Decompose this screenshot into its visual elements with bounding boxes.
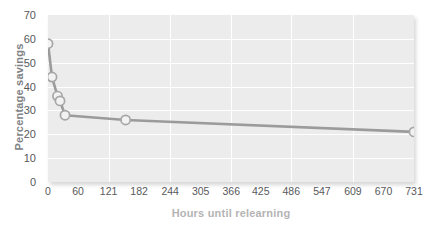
y-axis-tick-label: 20: [10, 129, 36, 140]
x-axis-tick-label: 731: [405, 186, 423, 197]
data-point-marker: [121, 115, 130, 124]
y-axis-tick-label: 50: [10, 57, 36, 68]
y-axis-tick-label: 30: [10, 105, 36, 116]
x-axis-tick-label: 244: [161, 186, 179, 197]
chart-figure: Percentage savings 010203040506070 06012…: [0, 0, 429, 236]
x-axis-tick-label: 121: [100, 186, 118, 197]
x-axis-tick-label: 547: [313, 186, 331, 197]
x-axis-tick-label: 425: [252, 186, 270, 197]
y-axis-tick-label: 40: [10, 81, 36, 92]
data-series-layer: [48, 15, 414, 182]
x-axis-tick-label: 182: [130, 186, 148, 197]
y-axis-tick-label: 60: [10, 33, 36, 44]
series-line-percentage-savings: [48, 44, 414, 132]
data-point-marker: [55, 96, 64, 105]
data-point-marker: [60, 111, 69, 120]
y-axis-tick-label: 10: [10, 153, 36, 164]
data-point-marker: [48, 72, 57, 81]
y-axis-tick-label: 70: [10, 10, 36, 21]
plot-area: [48, 15, 414, 182]
x-axis-tick-labels: 060121182244305366425486547609670731: [0, 186, 429, 202]
x-axis-tick-label: 0: [45, 186, 51, 197]
series-markers: [48, 39, 414, 136]
x-axis-title: Hours until relearning: [48, 207, 414, 219]
x-axis-tick-label: 486: [283, 186, 301, 197]
x-axis-tick-label: 609: [344, 186, 362, 197]
x-axis-tick-label: 366: [223, 186, 241, 197]
data-point-marker: [48, 39, 53, 48]
x-axis-tick-label: 305: [192, 186, 210, 197]
x-axis-tick-label: 670: [375, 186, 393, 197]
x-axis-tick-label: 60: [72, 186, 84, 197]
data-point-marker: [409, 127, 414, 136]
